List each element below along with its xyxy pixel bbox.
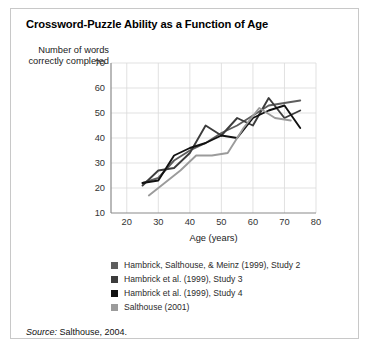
svg-text:30: 30 — [153, 217, 163, 227]
source-note: Source: Salthouse, 2004. — [26, 327, 127, 337]
legend-item-label: Hambrick et al. (1999), Study 3 — [124, 274, 242, 284]
svg-text:30: 30 — [95, 158, 105, 168]
svg-text:20: 20 — [122, 217, 132, 227]
svg-text:20: 20 — [95, 183, 105, 193]
svg-text:70: 70 — [95, 58, 105, 68]
svg-text:60: 60 — [95, 83, 105, 93]
source-prefix: Source: — [26, 327, 57, 337]
legend-swatch — [111, 276, 118, 283]
svg-text:10: 10 — [95, 208, 105, 218]
legend-item: Hambrick et al. (1999), Study 3 — [111, 272, 300, 286]
legend-item: Hambrick et al. (1999), Study 4 — [111, 286, 300, 300]
legend-item: Hambrick, Salthouse, & Meinz (1999), Stu… — [111, 258, 300, 272]
svg-text:40: 40 — [185, 217, 195, 227]
svg-text:70: 70 — [279, 217, 289, 227]
svg-text:50: 50 — [216, 217, 226, 227]
legend-swatch — [111, 262, 118, 269]
legend-item-label: Salthouse (2001) — [124, 302, 189, 312]
chart-legend: Hambrick, Salthouse, & Meinz (1999), Stu… — [111, 258, 300, 314]
legend-item: Salthouse (2001) — [111, 300, 300, 314]
source-text: Salthouse, 2004. — [60, 327, 128, 337]
legend-swatch — [111, 290, 118, 297]
legend-item-label: Hambrick, Salthouse, & Meinz (1999), Stu… — [124, 260, 300, 270]
figure-panel: Crossword-Puzzle Ability as a Function o… — [10, 8, 359, 339]
svg-text:60: 60 — [248, 217, 258, 227]
svg-text:80: 80 — [311, 217, 321, 227]
svg-text:50: 50 — [95, 108, 105, 118]
legend-item-label: Hambrick et al. (1999), Study 4 — [124, 288, 242, 298]
svg-text:Age (years): Age (years) — [189, 233, 237, 243]
legend-swatch — [111, 304, 118, 311]
svg-text:40: 40 — [95, 133, 105, 143]
